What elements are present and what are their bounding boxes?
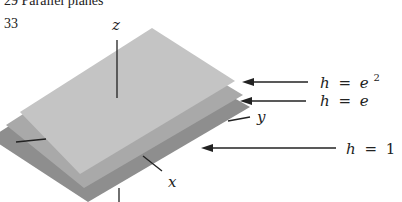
y-axis-label: y: [256, 108, 266, 126]
label-h-1: h = 1: [346, 140, 395, 158]
z-axis-label: z: [111, 16, 120, 34]
arrow-h-e: [240, 97, 306, 105]
x-axis-label: x: [168, 173, 177, 191]
parallel-planes-diagram: z y x h = e 2 h = e h = 1: [0, 0, 402, 202]
arrow-h-1: [201, 144, 336, 152]
label-h-e2: h = e 2: [320, 72, 380, 92]
arrow-h-e2: [242, 78, 308, 86]
label-h-e: h = e: [320, 92, 369, 110]
